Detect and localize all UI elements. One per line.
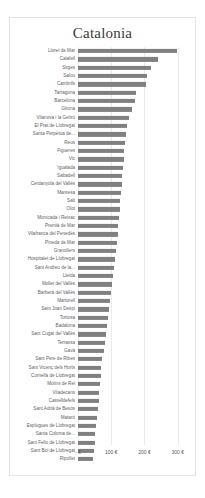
bar-category-label: Terrassa bbox=[10, 340, 78, 346]
bar-track bbox=[78, 380, 191, 388]
bar-row: Salt bbox=[10, 197, 191, 205]
bar bbox=[78, 341, 105, 345]
bar-row: Igualada bbox=[10, 164, 191, 172]
bar-category-label: Vilafranca del Penedès bbox=[10, 231, 78, 237]
bar-category-label: Castelldefels bbox=[10, 398, 78, 404]
bar bbox=[78, 57, 158, 61]
bar-row: Pineda de Mar bbox=[10, 239, 191, 247]
bar-category-label: Montcada i Reixac bbox=[10, 215, 78, 221]
bar-series: Lloret de MarCalafellSitgesSalouCambrils… bbox=[10, 47, 191, 445]
bar-track bbox=[78, 297, 191, 305]
bar-category-label: Mataró bbox=[10, 415, 78, 421]
bar bbox=[78, 116, 129, 120]
bar-row: Sant Vicenç dels Horts bbox=[10, 363, 191, 371]
bar-row: Salou bbox=[10, 72, 191, 80]
bar-track bbox=[78, 205, 191, 213]
bar-category-label: Sant Vicenç dels Horts bbox=[10, 365, 78, 371]
bar-category-label: Gavà bbox=[10, 348, 78, 354]
bar-row: Hospitalet de Llobregat bbox=[10, 255, 191, 263]
x-axis-tick-label: 200 € bbox=[138, 449, 151, 455]
bar-row: Lloret de Mar bbox=[10, 47, 191, 55]
bar-category-label: Lleida bbox=[10, 273, 78, 279]
bar bbox=[78, 274, 113, 278]
bar bbox=[78, 432, 95, 436]
bar-row: Castelldefels bbox=[10, 397, 191, 405]
bar-row: Figueres bbox=[10, 147, 191, 155]
bar bbox=[78, 199, 120, 203]
bar-category-label: Cerdanyola del Vallès bbox=[10, 181, 78, 187]
bar-category-label: Figueres bbox=[10, 148, 78, 154]
bar-track bbox=[78, 147, 191, 155]
bar-track bbox=[78, 64, 191, 72]
bar bbox=[78, 291, 111, 295]
chart-card: Catalonia Lloret de MarCalafellSitgesSal… bbox=[9, 17, 196, 476]
bar bbox=[78, 174, 122, 178]
bar-track bbox=[78, 305, 191, 313]
bar-row: Martorell bbox=[10, 297, 191, 305]
bar-track bbox=[78, 230, 191, 238]
bar-category-label: Molins de Rei bbox=[10, 381, 78, 387]
bar-row: Sant Andreu de la... bbox=[10, 264, 191, 272]
bar-category-label: Barcelona bbox=[10, 98, 78, 104]
bar bbox=[78, 216, 119, 220]
bar-row: Barcelona bbox=[10, 97, 191, 105]
bar-row: Molins de Rei bbox=[10, 380, 191, 388]
bar-row: Montcada i Reixac bbox=[10, 214, 191, 222]
bar-row: Sant Joan Despi bbox=[10, 305, 191, 313]
bar-row: Lleida bbox=[10, 272, 191, 280]
bar-track bbox=[78, 164, 191, 172]
bar-row: Cambrils bbox=[10, 80, 191, 88]
bar bbox=[78, 374, 101, 378]
bar-category-label: Martorell bbox=[10, 298, 78, 304]
bar-track bbox=[78, 413, 191, 421]
bar-category-label: Sitges bbox=[10, 65, 78, 71]
bar-track bbox=[78, 280, 191, 288]
bar-category-label: Sant Andreu de la... bbox=[10, 265, 78, 271]
bar-category-label: Hospitalet de Llobregat bbox=[10, 256, 78, 262]
bar-category-label: Granollers bbox=[10, 248, 78, 254]
bar bbox=[78, 241, 117, 245]
bar bbox=[78, 207, 120, 211]
bar-track bbox=[78, 130, 191, 138]
bar-row: Cerdanyola del Vallès bbox=[10, 180, 191, 188]
bar-row: Santa Coloma de... bbox=[10, 430, 191, 438]
bar-category-label: Tortosa bbox=[10, 315, 78, 321]
bar bbox=[78, 157, 124, 161]
bar-category-label: Badalona bbox=[10, 323, 78, 329]
bar bbox=[78, 399, 99, 403]
bar-category-label: Sant Feliu de Llobregat bbox=[10, 440, 78, 446]
bar-row: Premià de Mar bbox=[10, 222, 191, 230]
bar-row: Sant Pere de Ribes bbox=[10, 355, 191, 363]
bar bbox=[78, 316, 108, 320]
bar-category-label: Viladecans bbox=[10, 390, 78, 396]
bar-category-label: Esplugues de Llobregat bbox=[10, 423, 78, 429]
bar-category-label: Calafell bbox=[10, 56, 78, 62]
bar-row: Barberà del Vallès bbox=[10, 289, 191, 297]
bar-category-label: Santa Perpètua de... bbox=[10, 131, 78, 137]
x-axis-tick-label: 300 € bbox=[171, 449, 184, 455]
bar-category-label: Salou bbox=[10, 73, 78, 79]
bar-category-label: Sabadell bbox=[10, 173, 78, 179]
bar-track bbox=[78, 189, 191, 197]
bar-track bbox=[78, 314, 191, 322]
bar-category-label: Girona bbox=[10, 106, 78, 112]
bar-row: Vic bbox=[10, 155, 191, 163]
bar bbox=[78, 257, 115, 261]
bar bbox=[78, 99, 135, 103]
bar bbox=[78, 182, 122, 186]
bar bbox=[78, 416, 97, 420]
bar-track bbox=[78, 347, 191, 355]
bar-track bbox=[78, 97, 191, 105]
bar bbox=[78, 324, 107, 328]
bar-category-label: Mollet del Vallès bbox=[10, 281, 78, 287]
bar-category-label: Sant Pere de Ribes bbox=[10, 356, 78, 362]
bar-track bbox=[78, 363, 191, 371]
bar-track bbox=[78, 430, 191, 438]
bar-row: Sabadell bbox=[10, 172, 191, 180]
bar-track bbox=[78, 105, 191, 113]
bar-row: Tarragona bbox=[10, 89, 191, 97]
bar bbox=[78, 166, 123, 170]
bar-track bbox=[78, 172, 191, 180]
bar-track bbox=[78, 264, 191, 272]
bar-track bbox=[78, 405, 191, 413]
